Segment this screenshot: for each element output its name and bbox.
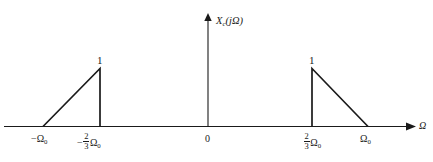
fraction-denominator: 3: [83, 142, 89, 151]
y-axis-arrowhead: [204, 13, 211, 21]
frequency-spectrum-figure: Xc(jΩ) Ω 1 1 0 −Ω0 −23Ω0 23Ω0 Ω0: [0, 0, 433, 162]
tick-omega-symbol-right: Ω: [310, 137, 317, 148]
tick-omega-subscript-left: 0: [97, 142, 100, 149]
x-axis-arrowhead: [406, 123, 416, 131]
fraction-two-thirds-right: 23: [304, 132, 310, 151]
tick-neg-two-thirds-sign: −: [77, 137, 83, 148]
tick-label-pos-omega0: Ω0: [360, 134, 371, 146]
tick-omega-subscript-right: 0: [318, 142, 321, 149]
fraction-denominator: 3: [304, 142, 310, 151]
tick-neg-omega0-symbol: −Ω: [31, 133, 44, 144]
amplitude-label-right: 1: [309, 55, 315, 66]
tick-label-origin: 0: [205, 134, 210, 144]
tick-pos-omega0-subscript: 0: [367, 138, 370, 145]
tick-label-neg-omega0: −Ω0: [31, 134, 47, 146]
tick-label-neg-two-thirds-omega0: −23Ω0: [77, 132, 101, 151]
y-axis-label: Xc(jΩ): [216, 16, 243, 28]
x-axis-label: Ω: [419, 121, 426, 131]
tick-neg-omega0-subscript: 0: [44, 138, 47, 145]
positive-band-trace: [312, 69, 368, 127]
tick-label-pos-two-thirds-omega0: 23Ω0: [303, 132, 321, 151]
negative-band-trace: [43, 69, 100, 127]
y-axis-label-argument: (jΩ): [226, 15, 244, 26]
fraction-two-thirds-left: 23: [83, 132, 89, 151]
amplitude-label-left: 1: [97, 55, 103, 66]
